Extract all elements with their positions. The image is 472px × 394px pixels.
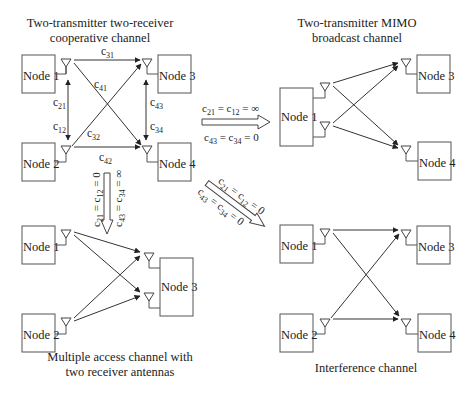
coop-node2-label: Node 2 bbox=[23, 157, 59, 171]
mac-node3-feed-bottom bbox=[149, 300, 160, 308]
broadcast-condition-2: c43 = c34 = 0 bbox=[204, 131, 259, 146]
arrow-right-icon bbox=[202, 115, 270, 129]
antenna-icon bbox=[320, 83, 330, 91]
mac-link bbox=[74, 235, 140, 292]
interference-title: Interference channel bbox=[315, 361, 418, 375]
bc-node4-feed bbox=[406, 153, 418, 161]
interference-channel: Node 1 Node 2 Node 3 Node 4 Interference… bbox=[280, 225, 456, 375]
label-c21: c21 bbox=[53, 96, 66, 111]
antenna-icon bbox=[144, 293, 154, 301]
bc-node1-feed-bottom bbox=[313, 129, 325, 137]
antenna-icon bbox=[61, 230, 71, 238]
label-c12: c12 bbox=[53, 120, 66, 135]
antenna-icon bbox=[320, 122, 330, 130]
mac-title-line1: Multiple access channel with bbox=[47, 350, 193, 364]
broadcast-title-line2: broadcast channel bbox=[312, 31, 402, 45]
antenna-icon bbox=[401, 319, 411, 327]
mac-condition-1: c21 = c12 = 0 bbox=[90, 172, 105, 227]
transition-to-mac: c21 = c12 = 0 c43 = c34 = ∞ bbox=[90, 170, 127, 234]
bc-link bbox=[333, 126, 398, 148]
channel-models-diagram: Two-transmitter two-receiver cooperative… bbox=[0, 0, 472, 394]
antenna-icon bbox=[142, 59, 152, 67]
bc-node1-feed-top bbox=[313, 90, 325, 98]
label-c43: c43 bbox=[150, 96, 163, 111]
coop-node4-feed bbox=[147, 153, 158, 162]
label-c31: c31 bbox=[101, 45, 114, 60]
cooperative-title-line1: Two-transmitter two-receiver bbox=[27, 16, 174, 30]
mac-node3-feed-top bbox=[149, 261, 160, 268]
coop-node3-label: Node 3 bbox=[159, 69, 195, 83]
bc-link bbox=[333, 63, 398, 83]
link-c32 bbox=[72, 64, 141, 146]
transition-to-broadcast: c21 = c12 = ∞ c43 = c34 = 0 bbox=[202, 102, 270, 146]
transition-to-interference: c21 = c12 = 0 c43 = c34 = 0 bbox=[194, 168, 275, 241]
coop-node1-label: Node 1 bbox=[23, 69, 59, 83]
ic-node4-label: Node 4 bbox=[419, 328, 456, 342]
label-c34: c34 bbox=[150, 120, 163, 135]
mac-channel: Node 1 Node 2 Node 3 Multiple access cha… bbox=[22, 226, 197, 379]
ic-link bbox=[331, 234, 399, 318]
mac-node1-label: Node 1 bbox=[23, 240, 59, 254]
ic-node1-label: Node 1 bbox=[281, 239, 317, 253]
bc-node3-label: Node 3 bbox=[418, 69, 454, 83]
ic-node3-label: Node 3 bbox=[418, 240, 454, 254]
antenna-icon bbox=[320, 229, 330, 237]
mac-title-line2: two receiver antennas bbox=[66, 365, 175, 379]
antenna-icon bbox=[61, 318, 71, 326]
mac-node3-label: Node 3 bbox=[161, 280, 197, 294]
ic-node2-label: Node 2 bbox=[281, 328, 317, 342]
coop-node3-feed bbox=[147, 66, 158, 74]
antenna-icon bbox=[142, 146, 152, 154]
broadcast-title-line1: Two-transmitter MIMO bbox=[298, 16, 417, 30]
antenna-icon bbox=[401, 146, 411, 154]
antenna-icon bbox=[61, 59, 71, 74]
bc-node4-label: Node 4 bbox=[419, 156, 456, 170]
antenna-icon bbox=[401, 59, 411, 67]
ic-node3-feed bbox=[406, 237, 417, 245]
antenna-icon bbox=[320, 319, 330, 327]
antenna-icon bbox=[144, 253, 154, 261]
cooperative-channel: Two-transmitter two-receiver cooperative… bbox=[22, 16, 196, 181]
antenna-icon bbox=[61, 146, 71, 154]
broadcast-condition-1: c21 = c12 = ∞ bbox=[202, 102, 259, 117]
label-c41: c41 bbox=[94, 78, 107, 93]
coop-node4-label: Node 4 bbox=[159, 157, 196, 171]
bc-node1-label: Node 1 bbox=[281, 110, 317, 124]
cooperative-title-line2: cooperative channel bbox=[50, 31, 151, 45]
mac-condition-2: c43 = c34 = ∞ bbox=[112, 170, 127, 227]
antenna-icon bbox=[401, 230, 411, 238]
label-c32: c32 bbox=[87, 127, 100, 142]
broadcast-channel: Two-transmitter MIMO broadcast channel N… bbox=[280, 16, 456, 180]
bc-node3-feed bbox=[406, 66, 417, 74]
label-c42: c42 bbox=[99, 151, 112, 166]
mac-node2-label: Node 2 bbox=[23, 328, 59, 342]
ic-node4-feed bbox=[406, 326, 418, 334]
